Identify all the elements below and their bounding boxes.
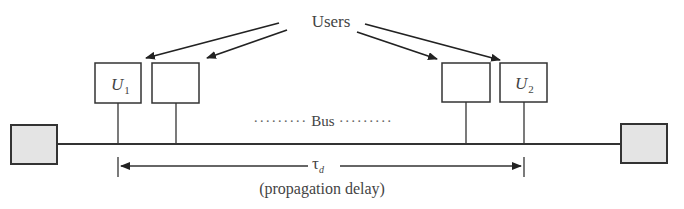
user-box-3 — [442, 63, 490, 102]
delay-symbol: τd — [312, 154, 325, 175]
left-terminator — [11, 125, 57, 164]
delay-caption: (propagation delay) — [259, 180, 385, 198]
arrow-to-user-3 — [357, 32, 437, 59]
users-label: Users — [312, 12, 351, 31]
bus-network-diagram: Users U1 U2 ·········Bus········· τd (pr… — [0, 0, 684, 209]
bus-label: ·········Bus········· — [253, 113, 392, 129]
user-box-2 — [152, 63, 199, 103]
right-terminator — [621, 124, 667, 163]
arrow-to-user-2 — [207, 30, 287, 58]
